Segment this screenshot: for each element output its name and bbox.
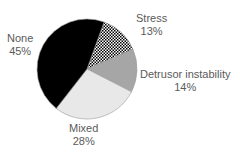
label-detrusor-name: Detrusor instability: [140, 68, 230, 81]
label-none-name: None: [7, 32, 33, 45]
label-mixed-name: Mixed: [69, 122, 98, 135]
label-detrusor-value: 14%: [140, 81, 230, 94]
label-none: None 45%: [7, 32, 33, 58]
label-detrusor-instability: Detrusor instability 14%: [140, 68, 230, 94]
label-mixed-value: 28%: [69, 135, 98, 148]
pie-slices: [37, 19, 137, 119]
label-mixed: Mixed 28%: [69, 122, 98, 148]
label-stress: Stress 13%: [136, 12, 167, 38]
label-stress-name: Stress: [136, 12, 167, 25]
label-stress-value: 13%: [136, 25, 167, 38]
label-none-value: 45%: [7, 45, 33, 58]
